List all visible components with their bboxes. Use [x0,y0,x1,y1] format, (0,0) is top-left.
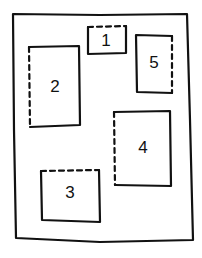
box-2-label: 2 [50,77,59,96]
box-1-dashed-edge [88,26,126,27]
box-3: 3 [41,170,100,222]
box-1: 1 [88,26,126,54]
box-4: 4 [114,111,171,186]
layout-diagram: 1 2 5 4 3 [0,0,202,258]
box-3-label: 3 [65,183,74,202]
box-5-label: 5 [149,53,158,72]
box-2-dashed-edge [29,47,30,127]
box-3-dashed-edge [41,170,99,171]
box-2: 2 [29,46,80,127]
box-1-label: 1 [101,31,110,50]
box-4-label: 4 [138,138,147,157]
box-5: 5 [136,35,172,93]
box-4-dashed-edge [114,112,115,185]
